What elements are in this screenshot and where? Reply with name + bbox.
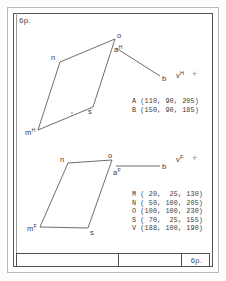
upper-vertex-label-m: mH — [25, 128, 36, 137]
lower-vertex-label-n: n — [60, 155, 64, 164]
upper-line-label-a: aH — [114, 45, 123, 54]
drawing-sheet: 6р. o n mH s aH b vH + A (110, 90, 205)B… — [0, 0, 226, 281]
title-block: 6р. — [16, 253, 210, 267]
upper-cross-marker-icon: + — [192, 70, 197, 79]
lower-point-label-v: vF — [176, 155, 184, 164]
upper-line-label-b: b — [162, 74, 166, 83]
upper-vertex-label-n: n — [51, 53, 55, 62]
lower-vertex-label-o: o — [108, 151, 112, 160]
upper-point-label-v: vH — [176, 71, 184, 80]
upper-vertex-label-o: o — [117, 31, 121, 40]
sheet-number-label: 6р. — [19, 16, 31, 25]
lower-line-label-b: b — [162, 162, 166, 171]
title-block-cell-middle — [119, 254, 182, 266]
upper-vertex-label-s: s — [88, 107, 92, 116]
lower-vertex-label-m: mF — [27, 224, 37, 233]
title-block-cell-left — [17, 254, 119, 266]
lower-line-label-a: aF — [113, 168, 121, 177]
title-block-number: 6р. — [191, 256, 202, 265]
upper-point-table: A (110, 90, 205)B (150, 90, 185) — [132, 97, 199, 114]
lower-cross-marker-icon: + — [192, 154, 197, 163]
title-block-cell-right: 6р. — [182, 254, 211, 266]
lower-point-table: M ( 20, 25, 130)N ( 50, 100, 205)O (100,… — [132, 190, 203, 233]
frame-margin-line — [16, 13, 17, 253]
lower-vertex-label-s: s — [90, 228, 94, 237]
